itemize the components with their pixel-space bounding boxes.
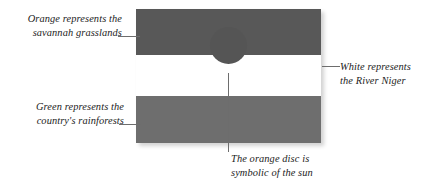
annotation-green-line-2: country's rainforests <box>12 114 124 128</box>
annotation-orange-line-1: Orange represents the <box>12 12 122 26</box>
annotation-disc-line-2: symbolic of the sun <box>231 166 313 180</box>
flag-sun-disc <box>210 27 247 64</box>
annotation-sun-disc: The orange disc is symbolic of the sun <box>231 152 313 179</box>
flag-diagram-figure: Orange represents the savannah grassland… <box>0 0 436 187</box>
annotation-white-band: White represents the River Niger <box>340 60 411 87</box>
annotation-green-line-1: Green represents the <box>12 100 124 114</box>
annotation-white-line-1: White represents <box>340 60 411 74</box>
leader-line-white <box>322 66 340 67</box>
leader-line-sun-disc <box>228 73 229 152</box>
annotation-white-line-2: the River Niger <box>340 74 411 88</box>
annotation-green-band: Green represents the country's rainfores… <box>12 100 124 127</box>
annotation-orange-line-2: savannah grasslands <box>12 26 122 40</box>
annotation-disc-line-1: The orange disc is <box>231 152 313 166</box>
annotation-orange-band: Orange represents the savannah grassland… <box>12 12 122 39</box>
